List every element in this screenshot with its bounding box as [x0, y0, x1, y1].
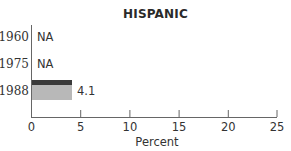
- category-label-1988: 1988: [0, 84, 29, 98]
- category-label-1960: 1960: [0, 30, 29, 44]
- bar-chart: 0 5 10 15 20 25 Percent 1960 1975 1988 N…: [0, 0, 291, 151]
- svg-text:15: 15: [172, 120, 187, 134]
- svg-text:0: 0: [28, 120, 35, 134]
- x-tick-labels: 0 5 10 15 20 25: [28, 120, 284, 134]
- svg-text:25: 25: [270, 120, 285, 134]
- x-axis-label: Percent: [135, 135, 179, 149]
- value-label-1960: NA: [37, 30, 54, 44]
- svg-text:10: 10: [123, 120, 138, 134]
- category-label-1975: 1975: [0, 57, 29, 71]
- value-label-1975: NA: [37, 57, 54, 71]
- value-label-1988: 4.1: [77, 84, 95, 98]
- bar-1988: [32, 80, 72, 100]
- svg-text:5: 5: [77, 120, 84, 134]
- svg-text:20: 20: [221, 120, 236, 134]
- x-ticks: [32, 110, 278, 117]
